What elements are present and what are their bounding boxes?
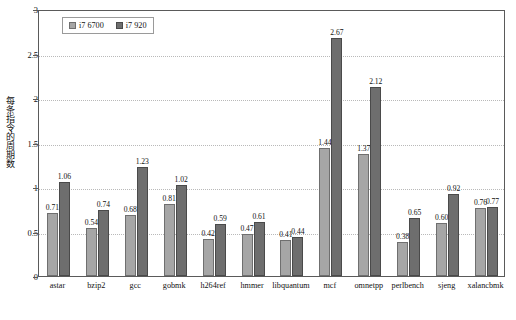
bar (436, 223, 447, 276)
bar-value-label: 0.44 (287, 228, 309, 236)
bar (448, 194, 459, 276)
bar-value-label: 0.65 (404, 209, 426, 217)
bar (370, 87, 381, 276)
bar (125, 215, 136, 276)
bar-value-label: 1.23 (131, 158, 153, 166)
bar (358, 154, 369, 276)
chart-legend: i7 6700i7 920 (62, 17, 154, 34)
bar (475, 208, 486, 276)
x-axis-tick-label: omnetpp (349, 281, 388, 291)
bar (280, 240, 291, 276)
bar-chart: 每条指令的周期数 00.511.522.53 0.711.060.540.740… (0, 0, 516, 320)
bar (292, 237, 303, 276)
x-axis-tick-label: h264ref (194, 281, 233, 291)
bar-value-label: 0.61 (248, 213, 270, 221)
bar-value-label: 2.67 (326, 29, 348, 37)
bar (164, 204, 175, 276)
bars-layer: 0.711.060.540.740.681.230.811.020.420.59… (39, 11, 504, 276)
x-axis-tick-label: gobmk (155, 281, 194, 291)
x-axis-tick-label: sjeng (427, 281, 466, 291)
legend-entry: i7 920 (116, 21, 147, 30)
x-axis-tick-label: gcc (116, 281, 155, 291)
x-axis-tick-label: bzip2 (77, 281, 116, 291)
bar (86, 228, 97, 276)
bar (176, 185, 187, 276)
bar (397, 242, 408, 276)
bar-value-label: 1.02 (170, 176, 192, 184)
y-axis-tick-labels: 00.511.522.53 (0, 10, 38, 277)
bar (319, 148, 330, 276)
bar-value-label: 0.77 (482, 198, 504, 206)
bar (409, 218, 420, 276)
legend-label: i7 920 (126, 21, 147, 30)
bar (215, 224, 226, 277)
bar (137, 167, 148, 276)
bar-value-label: 2.12 (365, 78, 387, 86)
x-axis-tick-label: hmmer (233, 281, 272, 291)
legend-label: i7 6700 (79, 21, 104, 30)
x-axis-tick-label: astar (38, 281, 77, 291)
bar (242, 234, 253, 276)
bar-value-label: 0.59 (209, 215, 231, 223)
bar (254, 222, 265, 276)
bar-value-label: 0.74 (92, 201, 114, 209)
legend-entry: i7 6700 (69, 21, 104, 30)
bar (331, 38, 342, 276)
bar (487, 207, 498, 276)
plot-area: 0.711.060.540.740.681.230.811.020.420.59… (38, 10, 505, 277)
x-axis-tick-labels: astarbzip2gccgobmkh264refhmmerlibquantum… (38, 281, 505, 311)
legend-swatch-icon (116, 22, 123, 29)
bar (47, 213, 58, 276)
bar-value-label: 1.06 (53, 173, 75, 181)
x-axis-tick-label: perlbench (388, 281, 427, 291)
bar-value-label: 0.92 (443, 185, 465, 193)
x-axis-tick-label: libquantum (272, 281, 311, 291)
legend-swatch-icon (69, 22, 76, 29)
x-axis-tick-label: mcf (310, 281, 349, 291)
x-axis-tick-label: xalancbmk (466, 281, 505, 291)
bar (98, 210, 109, 276)
y-axis-tick-mark (33, 277, 38, 278)
bar (203, 239, 214, 276)
bar (59, 182, 70, 276)
